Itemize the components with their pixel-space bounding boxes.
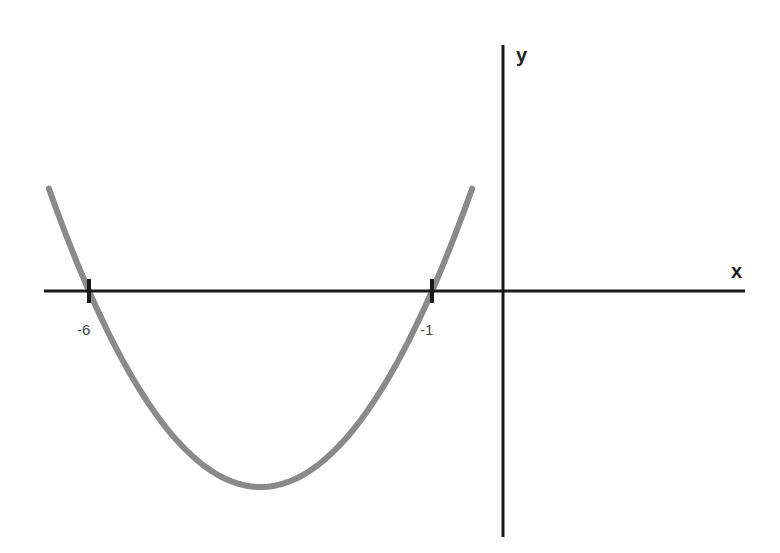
parabola-curve <box>49 189 472 488</box>
y-axis-label: y <box>516 44 528 66</box>
chart-canvas: -6 -1 y x <box>0 0 780 553</box>
tick-label-neg6: -6 <box>77 321 90 338</box>
x-axis-label: x <box>731 260 742 282</box>
tick-label-neg1: -1 <box>420 321 433 338</box>
